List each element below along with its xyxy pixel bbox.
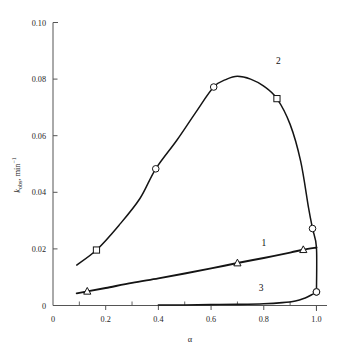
curve-label-1: 1 <box>261 238 266 248</box>
x-tick-label-1: 0.2 <box>101 315 111 324</box>
marker-square-2-0 <box>93 247 99 253</box>
marker-circle-3-0 <box>313 289 320 296</box>
tick-marks-group <box>53 23 316 311</box>
data-markers-group <box>84 84 320 296</box>
x-axis-title-text: α <box>188 335 193 344</box>
x-axis-title-group: α <box>188 335 193 344</box>
y-tick-label-4: 0.08 <box>32 75 46 84</box>
y-axis-title-k: k <box>13 189 22 193</box>
figure-container: 00.020.040.060.080.1000.20.40.60.81.0 12… <box>0 0 354 347</box>
curve-2 <box>77 76 317 292</box>
y-axis-title: kobs, min−1 <box>6 120 28 230</box>
curve-label-2: 2 <box>276 56 281 66</box>
y-axis-title-obs: obs <box>17 181 23 189</box>
marker-circle-2-1 <box>152 166 159 173</box>
curve-label-3: 3 <box>259 283 264 293</box>
x-tick-label-2: 0.4 <box>153 315 163 324</box>
y-tick-label-1: 0.02 <box>32 245 46 254</box>
marker-circle-2-2 <box>210 84 217 91</box>
y-tick-label-2: 0.04 <box>32 188 46 197</box>
y-axis-title-unit: , min <box>13 164 22 181</box>
x-tick-label-5: 1.0 <box>311 315 321 324</box>
y-axis-title-text: kobs, min−1 <box>11 157 23 193</box>
line-chart: 00.020.040.060.080.1000.20.40.60.81.0 12… <box>0 0 354 347</box>
x-tick-label-0: 0 <box>51 315 55 324</box>
y-axis-title-exponent: −1 <box>11 157 17 163</box>
y-tick-label-3: 0.06 <box>32 132 46 141</box>
axis-group <box>53 23 327 312</box>
x-tick-label-4: 0.8 <box>259 315 269 324</box>
axis-spine <box>53 23 327 306</box>
x-tick-label-3: 0.6 <box>206 315 216 324</box>
curve-1 <box>77 247 317 293</box>
marker-square-2-3 <box>274 96 280 102</box>
y-tick-label-5: 0.10 <box>32 19 46 28</box>
data-curves-group <box>77 76 317 305</box>
marker-circle-2-4 <box>309 225 316 232</box>
y-tick-label-0: 0 <box>42 302 46 311</box>
